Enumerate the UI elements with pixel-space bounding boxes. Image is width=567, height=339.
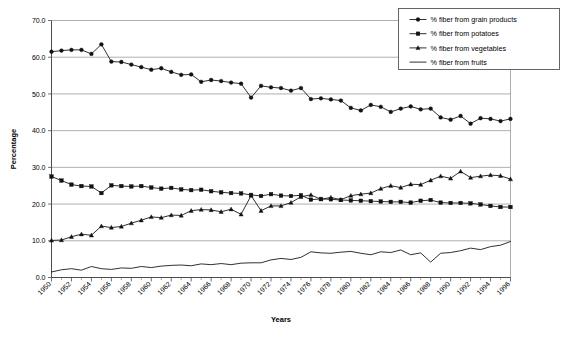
series-3	[52, 242, 511, 272]
svg-text:1990: 1990	[435, 280, 451, 296]
svg-text:50.0: 50.0	[32, 91, 46, 98]
series-2	[49, 169, 512, 242]
svg-text:1968: 1968	[216, 280, 232, 296]
data-series-group	[49, 42, 512, 272]
x-axis-title: Years	[271, 315, 291, 324]
svg-text:1952: 1952	[56, 280, 72, 296]
svg-text:1976: 1976	[296, 280, 312, 296]
svg-text:1962: 1962	[156, 280, 172, 296]
svg-text:1972: 1972	[256, 280, 272, 296]
svg-text:70.0: 70.0	[32, 17, 46, 24]
y-axis-tick-labels: 0.010.020.030.040.050.060.070.0	[32, 17, 46, 281]
svg-text:0.0: 0.0	[36, 274, 46, 281]
svg-text:1950: 1950	[36, 280, 52, 296]
chart-canvas: 0.010.020.030.040.050.060.070.0 19501952…	[0, 0, 567, 339]
svg-text:1984: 1984	[376, 280, 392, 296]
svg-text:40.0: 40.0	[32, 127, 46, 134]
svg-text:1980: 1980	[336, 280, 352, 296]
line-chart: 0.010.020.030.040.050.060.070.0 19501952…	[0, 0, 567, 339]
chart-legend: % fiber from grain products% fiber from …	[399, 9, 560, 70]
x-axis-ticks	[52, 278, 511, 282]
svg-text:20.0: 20.0	[32, 201, 46, 208]
svg-text:1974: 1974	[276, 280, 292, 296]
svg-text:1994: 1994	[475, 280, 491, 296]
svg-text:% fiber from vegetables: % fiber from vegetables	[431, 44, 507, 53]
y-axis-title: Percentage	[9, 129, 18, 169]
svg-text:1988: 1988	[415, 280, 431, 296]
svg-text:1978: 1978	[316, 280, 332, 296]
svg-text:1956: 1956	[96, 280, 112, 296]
svg-text:1970: 1970	[236, 280, 252, 296]
svg-text:1954: 1954	[76, 280, 92, 296]
svg-text:1996: 1996	[495, 280, 511, 296]
svg-text:60.0: 60.0	[32, 54, 46, 61]
svg-text:1964: 1964	[176, 280, 192, 296]
svg-text:1958: 1958	[116, 280, 132, 296]
svg-text:1982: 1982	[356, 280, 372, 296]
svg-text:1966: 1966	[196, 280, 212, 296]
svg-text:% fiber from potatoes: % fiber from potatoes	[431, 29, 500, 38]
svg-text:30.0: 30.0	[32, 164, 46, 171]
svg-text:% fiber from grain products: % fiber from grain products	[431, 15, 518, 24]
x-axis-tick-labels: 1950195219541956195819601962196419661968…	[36, 280, 511, 296]
svg-text:% fiber from fruits: % fiber from fruits	[431, 58, 488, 67]
svg-text:1986: 1986	[395, 280, 411, 296]
svg-text:1992: 1992	[455, 280, 471, 296]
svg-text:10.0: 10.0	[32, 237, 46, 244]
svg-text:1960: 1960	[136, 280, 152, 296]
